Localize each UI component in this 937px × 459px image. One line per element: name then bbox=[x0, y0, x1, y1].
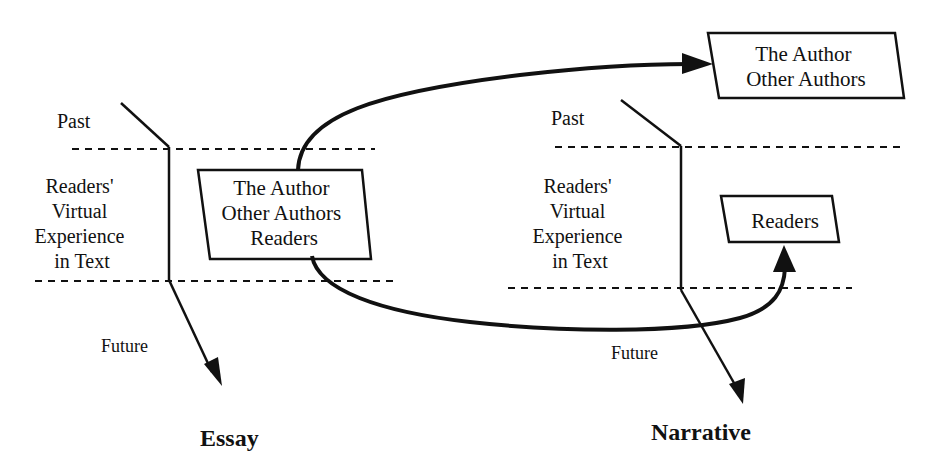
narrative-author-text: The Author Other Authors bbox=[746, 42, 866, 91]
essay-future-label: Future bbox=[101, 336, 148, 356]
essay-panel: Past Readers' Virtual Experience in Text… bbox=[35, 103, 395, 451]
essay-region-label: Readers' Virtual Experience in Text bbox=[35, 175, 130, 272]
narrative-region-label: Readers' Virtual Experience in Text bbox=[533, 175, 628, 272]
arrow-to-narrative-author bbox=[298, 64, 690, 170]
narrative-title: Narrative bbox=[651, 419, 751, 445]
essay-past-label: Past bbox=[57, 110, 91, 132]
narrative-timeline-future-segment bbox=[681, 290, 738, 390]
essay-title: Essay bbox=[200, 425, 259, 451]
essay-timeline-past-segment bbox=[121, 103, 169, 147]
narrative-future-label: Future bbox=[611, 343, 658, 363]
arrow-to-narrative-author-head bbox=[682, 53, 713, 74]
narrative-readers-text: Readers bbox=[751, 209, 819, 233]
arrow-to-narrative-readers bbox=[312, 256, 785, 330]
narrative-past-label: Past bbox=[551, 107, 585, 129]
essay-timeline-future-segment bbox=[169, 280, 212, 372]
narrative-panel: Past Readers' Virtual Experience in Text… bbox=[508, 33, 904, 445]
narrative-future-arrowhead bbox=[729, 378, 745, 404]
arrow-to-narrative-readers-head bbox=[773, 245, 796, 272]
essay-narrative-diagram: Past Readers' Virtual Experience in Text… bbox=[0, 0, 937, 459]
narrative-timeline-past-segment bbox=[621, 100, 681, 146]
